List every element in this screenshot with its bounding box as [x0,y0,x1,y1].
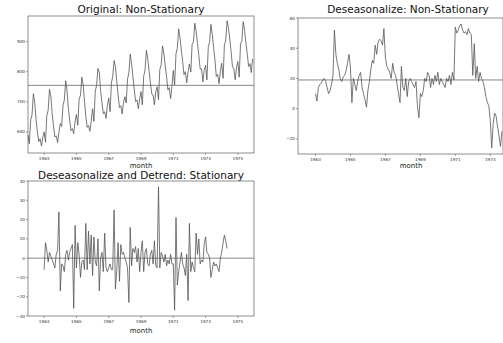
x-tick-label: 1969 [136,319,147,324]
y-tick-label: −10 [16,275,25,280]
y-tick-label: 900 [17,39,25,44]
x-axis-label: month [400,162,423,170]
y-tick-label: 10 [20,236,26,241]
y-tick-label: −20 [286,136,295,141]
axes-frame [28,181,254,316]
x-tick-label: 1973 [200,319,211,324]
plot-area: 6007008009001963196519671969197119731975 [17,16,254,161]
x-tick-label: 1963 [39,156,50,161]
x-tick-label: 1971 [168,319,179,324]
chart-stationary: Deseasonalize and Detrend: Stationary −3… [0,170,260,343]
x-tick-label: 1967 [103,156,114,161]
series-line [316,24,502,148]
y-tick-label: −30 [16,314,25,319]
y-tick-label: 40 [20,179,26,184]
y-tick-label: 700 [17,99,25,104]
y-tick-label: 30 [20,198,26,203]
x-tick-label: 1965 [345,157,356,162]
y-tick-label: −20 [16,294,25,299]
x-tick-label: 1965 [71,319,82,324]
x-tick-label: 1969 [136,156,147,161]
y-tick-label: 20 [20,217,26,222]
chart-title: Deseasonalize and Detrend: Stationary [38,169,244,181]
series-line [28,21,253,146]
chart-title: Deseasonalize: Non-Stationary [327,3,489,15]
x-tick-label: 1971 [450,157,461,162]
y-tick-label: 20 [290,76,296,81]
x-tick-label: 1975 [233,319,244,324]
y-tick-label: 0 [22,256,25,261]
x-tick-label: 1967 [380,157,391,162]
x-tick-label: 1965 [71,156,82,161]
chart-original: Original: Non-Stationary 600700800900196… [0,0,260,170]
x-tick-label: 1973 [200,156,211,161]
x-axis-label: month [130,327,153,335]
axes-frame [28,16,254,153]
chart-deseasonalize: Deseasonalize: Non-Stationary −200204060… [260,0,503,170]
y-tick-label: 40 [290,46,296,51]
chart-title: Original: Non-Stationary [78,3,205,15]
x-tick-label: 1963 [39,319,50,324]
y-tick-label: 60 [290,16,296,21]
chart-original-svg: Original: Non-Stationary 600700800900196… [0,0,260,170]
y-tick-label: 800 [17,69,25,74]
y-tick-label: 600 [17,129,25,134]
x-tick-label: 1971 [168,156,179,161]
plot-area: −30−20−100102030401963196519671969197119… [16,179,254,325]
chart-stationary-svg: Deseasonalize and Detrend: Stationary −3… [0,170,260,343]
x-tick-label: 1967 [103,319,114,324]
x-tick-label: 1963 [310,157,321,162]
y-tick-label: 0 [292,106,295,111]
series-line [44,187,227,310]
x-tick-label: 1975 [233,156,244,161]
chart-deseasonalize-svg: Deseasonalize: Non-Stationary −200204060… [260,0,503,170]
x-tick-label: 1973 [485,157,496,162]
plot-area: −200204060196319651967196919711973 [286,16,503,163]
